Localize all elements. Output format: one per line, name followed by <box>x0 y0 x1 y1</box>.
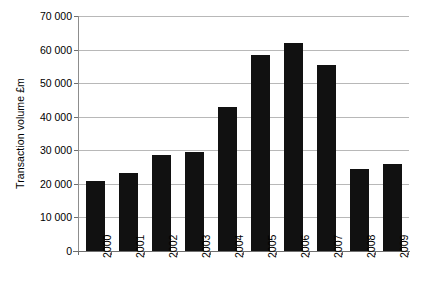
x-tick-label: 2007 <box>331 218 345 258</box>
y-tick-label: 70 000 <box>22 11 72 21</box>
x-tick-label: 2002 <box>166 218 180 258</box>
y-tick-label: 0 <box>22 246 72 256</box>
bar-chart: Transaction volume £m 010 00020 00030 00… <box>0 0 425 297</box>
x-tick-label: 2006 <box>298 218 312 258</box>
x-tick-label: 2001 <box>133 218 147 258</box>
x-tick-label: 2009 <box>397 218 411 258</box>
y-tick-mark <box>74 117 78 118</box>
y-tick-label: 40 000 <box>22 112 72 122</box>
x-tick-label: 2003 <box>199 218 213 258</box>
x-tick-label: 2008 <box>364 218 378 258</box>
y-axis-tick-labels: 010 00020 00030 00040 00050 00060 00070 … <box>18 0 72 297</box>
y-tick-mark <box>74 184 78 185</box>
y-tick-label: 30 000 <box>22 145 72 155</box>
x-tick-label: 2004 <box>232 218 246 258</box>
x-tick-label: 2000 <box>100 218 114 258</box>
x-tick-mark <box>78 251 79 255</box>
y-tick-label: 20 000 <box>22 179 72 189</box>
x-tick-label: 2005 <box>265 218 279 258</box>
y-tick-mark <box>74 50 78 51</box>
y-tick-label: 60 000 <box>22 45 72 55</box>
y-tick-mark <box>74 217 78 218</box>
y-tick-label: 10 000 <box>22 212 72 222</box>
y-tick-mark <box>74 16 78 17</box>
y-tick-mark <box>74 150 78 151</box>
plot-area <box>78 16 409 251</box>
bars-layer <box>79 16 409 251</box>
y-tick-mark <box>74 83 78 84</box>
y-tick-label: 50 000 <box>22 78 72 88</box>
